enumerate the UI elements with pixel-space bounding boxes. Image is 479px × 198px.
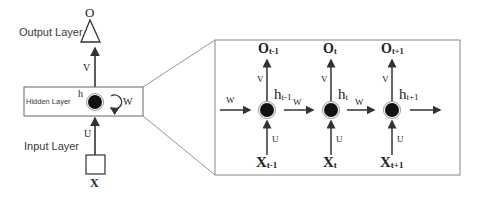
input-step3: Xt+1 [380, 154, 403, 171]
hidden-step1: ht-1 [274, 86, 292, 103]
hidden-step1-symbol: h [274, 86, 282, 102]
output-step3: Ot+1 [381, 41, 404, 57]
output-step3-sub: t+1 [392, 47, 404, 56]
v-label-step2: V [321, 74, 328, 84]
input-step1-sub: t-1 [267, 160, 278, 170]
u-label-step1: U [272, 134, 279, 144]
w-label-step1: W [293, 97, 302, 107]
recurrent-loop-icon [111, 95, 122, 109]
hidden-layer-label: Hidden Layer [26, 97, 71, 106]
zoom-connector-top [143, 40, 215, 87]
weight-w-label: W [123, 96, 132, 107]
timestep-t-minus-1 [259, 60, 314, 155]
input-step1: Xt-1 [256, 154, 277, 171]
weight-u-label: U [84, 128, 91, 139]
unfolded-rnn [215, 40, 460, 175]
output-step1-sub: t-1 [269, 47, 279, 56]
timestep-t-plus-1 [384, 60, 441, 155]
input-step2-sub: t [334, 160, 337, 170]
output-step2-sub: t [334, 47, 337, 56]
input-layer-label: Input Layer [24, 140, 79, 152]
neuron-step3 [385, 103, 399, 117]
v-label-step3: V [382, 74, 389, 84]
hidden-step1-sub: t-1 [282, 92, 292, 102]
hidden-step2: ht [338, 86, 348, 103]
output-step2-symbol: O [323, 41, 334, 56]
output-step1-symbol: O [258, 41, 269, 56]
u-label-step2: U [336, 134, 343, 144]
hidden-neuron [88, 95, 102, 109]
timestep-t [323, 60, 375, 155]
v-label-step1: V [257, 74, 264, 84]
neuron-step2 [324, 103, 338, 117]
neuron-step1 [260, 103, 274, 117]
output-step2: Ot [323, 41, 337, 57]
input-node-square [86, 155, 105, 174]
output-step3-symbol: O [381, 41, 392, 56]
hidden-step3-symbol: h [399, 86, 407, 102]
output-layer-label: Output Layer [19, 26, 83, 38]
input-symbol: X [90, 176, 99, 191]
w-label-step2: W [355, 97, 364, 107]
weight-v-label: V [83, 62, 90, 73]
input-step3-sub: t+1 [391, 160, 404, 170]
input-step2-symbol: X [323, 154, 334, 170]
hidden-step2-sub: t [346, 92, 349, 102]
output-symbol: O [85, 5, 94, 21]
hidden-symbol: h [78, 88, 83, 99]
hidden-step2-symbol: h [338, 86, 346, 102]
output-node-triangle [81, 20, 100, 42]
u-label-step3: U [397, 134, 404, 144]
output-step1: Ot-1 [258, 41, 279, 57]
incoming-w-label: W [226, 95, 235, 105]
hidden-step3: ht+1 [399, 86, 419, 103]
input-step1-symbol: X [256, 154, 267, 170]
input-step3-symbol: X [380, 154, 391, 170]
input-step2: Xt [323, 154, 337, 171]
zoom-connector-bottom [143, 116, 215, 175]
hidden-step3-sub: t+1 [407, 92, 419, 102]
